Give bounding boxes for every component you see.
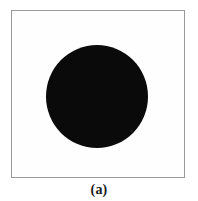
black-disc-shape (46, 45, 148, 148)
figure-page: (a) (0, 0, 198, 201)
image-frame (11, 10, 185, 178)
scan-speckle (130, 129, 133, 132)
figure-caption: (a) (0, 181, 198, 199)
